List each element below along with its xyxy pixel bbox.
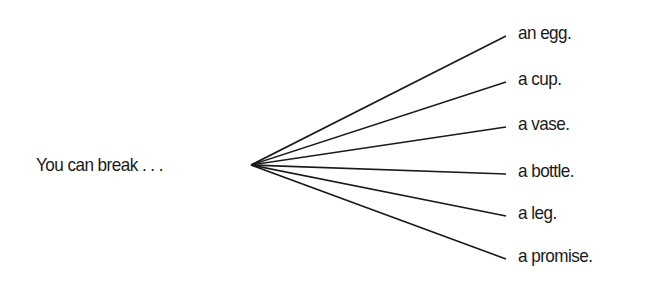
branch-line-5 [251,165,506,259]
branch-label: a vase. [518,113,569,135]
branch-label: a promise. [518,245,592,267]
branch-label: a cup. [518,68,561,90]
branch-line-1 [251,82,506,165]
stem-text: You can break . . . [36,154,163,176]
branch-label: a leg. [518,202,557,224]
branch-label: an egg. [518,22,571,44]
branch-label: a bottle. [518,160,574,182]
